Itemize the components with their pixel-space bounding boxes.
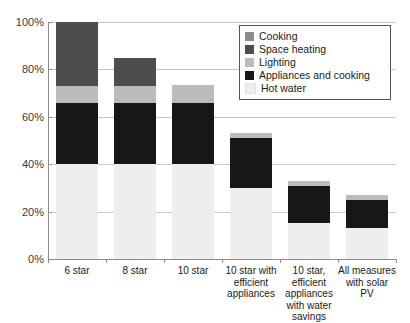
legend-item[interactable]: Space heating [245, 43, 385, 56]
x-axis-tick-mark [338, 259, 339, 263]
bar-segment[interactable] [346, 228, 388, 259]
bar-segment[interactable] [172, 164, 214, 259]
bar-stack[interactable] [288, 181, 330, 259]
legend-swatch-icon [245, 71, 254, 80]
legend-item[interactable]: Appliances and cooking [245, 69, 385, 82]
legend-item-label: Appliances and cooking [259, 70, 370, 81]
x-axis-tick-mark [280, 259, 281, 263]
bar-segment[interactable] [114, 58, 156, 86]
x-axis-tick-labels: 6 star8 star10 star10 star with efficien… [48, 265, 396, 315]
bar-segment[interactable] [56, 22, 98, 86]
y-axis-tick-label: 40% [2, 159, 44, 170]
legend-item-label: Cooking [259, 31, 298, 42]
y-axis-line [48, 22, 49, 260]
legend-item[interactable]: Lighting [245, 56, 385, 69]
legend-swatch-icon [245, 45, 254, 54]
y-axis-tick-label: 100% [2, 17, 44, 28]
legend-item-label: Hot water [261, 83, 306, 94]
legend-item[interactable]: Hot water [245, 82, 385, 95]
bar-segment[interactable] [56, 86, 98, 103]
bar-segment[interactable] [114, 164, 156, 259]
x-axis-tick-mark [48, 259, 49, 263]
y-axis-tick-mark [48, 164, 52, 165]
bar-segment[interactable] [230, 188, 272, 259]
bar-segment[interactable] [288, 186, 330, 224]
legend-swatch-icon [245, 32, 254, 41]
legend-item-label: Space heating [259, 44, 326, 55]
bar-segment[interactable] [346, 200, 388, 228]
x-axis-tick-label: 10 star [164, 265, 222, 277]
y-axis-tick-mark [48, 69, 52, 70]
x-axis-tick-label: 6 star [48, 265, 106, 277]
bar-segment[interactable] [56, 103, 98, 165]
chart-legend: CookingSpace heatingLightingAppliances a… [239, 25, 391, 100]
bar-stack[interactable] [172, 85, 214, 259]
bar-slot [164, 22, 222, 259]
y-axis-tick-label: 20% [2, 207, 44, 218]
bar-segment[interactable] [288, 223, 330, 259]
y-axis-tick-mark [48, 212, 52, 213]
y-axis-tick-mark [48, 22, 52, 23]
y-axis-tick-labels: 0%20%40%60%80%100% [0, 22, 44, 259]
bar-stack[interactable] [346, 195, 388, 259]
y-axis-tick-label: 80% [2, 64, 44, 75]
bar-stack[interactable] [114, 58, 156, 259]
legend-item[interactable]: Cooking [245, 30, 385, 43]
bar-segment[interactable] [230, 138, 272, 188]
y-axis-tick-label: 60% [2, 112, 44, 123]
x-axis-tick-label: 10 star, efficient appliances with water… [280, 265, 338, 323]
bar-segment[interactable] [172, 103, 214, 165]
x-axis-tick-label: All measures with solar PV [338, 265, 396, 300]
bar-stack[interactable] [56, 22, 98, 259]
y-axis-tick-mark [48, 117, 52, 118]
bar-stack[interactable] [230, 133, 272, 259]
y-axis-tick-label: 0% [2, 254, 44, 265]
x-axis-tick-label: 10 star with efficient appliances [222, 265, 280, 300]
x-axis-tick-label: 8 star [106, 265, 164, 277]
x-axis-tick-mark [106, 259, 107, 263]
bar-segment[interactable] [114, 103, 156, 165]
bar-slot [48, 22, 106, 259]
x-axis-tick-mark [222, 259, 223, 263]
legend-item-label: Lighting [259, 57, 296, 68]
legend-swatch-icon [245, 58, 254, 67]
bar-segment[interactable] [56, 164, 98, 259]
bar-slot [106, 22, 164, 259]
bar-segment[interactable] [172, 85, 214, 103]
x-axis-tick-mark [396, 259, 397, 263]
legend-swatch-icon [245, 83, 256, 94]
bar-segment[interactable] [114, 86, 156, 103]
x-axis-tick-mark [164, 259, 165, 263]
